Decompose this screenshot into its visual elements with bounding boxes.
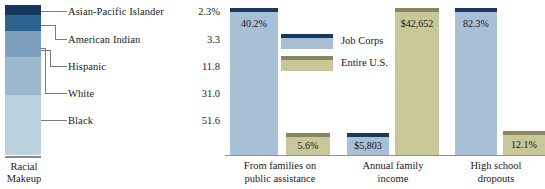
bar-cap-job-corps (455, 8, 497, 12)
racial-label-hispanic: Hispanic (68, 61, 106, 72)
racial-caption-line1: Racial (0, 161, 48, 174)
stack-segment-white (5, 57, 41, 95)
bar-job-corps-annual-family-income: $5,803 (347, 133, 389, 155)
stack-segment-black (5, 95, 41, 155)
legend-swatch-job-corps (281, 34, 333, 49)
racial-label-black: Black (68, 115, 93, 126)
racial-makeup-chart: Asian-Pacific Islander American Indian H… (0, 0, 230, 189)
bar-value-job-corps-high-school-dropouts: 82.3% (455, 18, 497, 29)
racial-value-american-indian: 3.3 (178, 34, 220, 45)
racial-label-asian-pacific-islander: Asian-Pacific Islander (68, 6, 164, 17)
group-caption-public-assistance-line1: From families on (225, 160, 335, 173)
bar-cap-job-corps (230, 8, 278, 12)
bar-job-corps-high-school-dropouts: 82.3% (455, 8, 497, 155)
bar-cap-entire-us (503, 131, 545, 135)
bar-cap-entire-us (286, 133, 330, 137)
legend-swatch-entire-us (281, 56, 333, 71)
leader-line-american-indian-seg (41, 25, 55, 26)
racial-value-hispanic: 11.8 (178, 61, 220, 72)
group-caption-annual-family-income-line2: income (338, 173, 448, 186)
stack-segment-hispanic (5, 31, 41, 57)
stack-segment-american-indian (5, 15, 41, 31)
leader-line-asian-pacific-islander (41, 11, 67, 12)
legend-swatch-cap-entire-us (281, 56, 333, 60)
bar-value-entire-us-public-assistance: 5.6% (286, 140, 330, 151)
leader-line-hispanic-drop (50, 50, 51, 67)
bar-value-entire-us-high-school-dropouts: 12.1% (503, 139, 545, 150)
bar-cap-entire-us (395, 8, 439, 12)
racial-value-black: 51.6 (178, 115, 220, 126)
legend-swatch-cap-job-corps (281, 34, 333, 38)
group-caption-high-school-dropouts-line2: dropouts (447, 173, 545, 186)
leader-line-hispanic-label (50, 66, 67, 67)
leader-line-white-label (45, 93, 67, 94)
bar-value-job-corps-public-assistance: 40.2% (230, 18, 278, 29)
figure-root: Asian-Pacific Islander American Indian H… (0, 0, 545, 189)
racial-label-american-indian: American Indian (68, 34, 140, 45)
group-caption-high-school-dropouts-line1: High school (447, 160, 545, 173)
racial-stacked-bar (5, 5, 41, 155)
grouped-bar-chart: 40.2% 5.6% From families on public assis… (225, 0, 545, 189)
group-caption-public-assistance-line2: public assistance (225, 173, 335, 186)
leader-line-white-drop (45, 48, 46, 94)
racial-caption-line2: Makeup (0, 173, 48, 186)
stack-segment-asian-pacific-islander (5, 5, 41, 15)
legend-label-job-corps: Job Corps (341, 35, 383, 47)
racial-label-white: White (68, 88, 94, 99)
bar-value-entire-us-annual-family-income: $42,652 (395, 18, 439, 29)
bar-value-job-corps-annual-family-income: $5,803 (347, 140, 389, 151)
leader-line-black (41, 120, 67, 121)
group-caption-annual-family-income-line1: Annual family (338, 160, 448, 173)
bar-job-corps-public-assistance: 40.2% (230, 8, 278, 155)
stack-baseline (5, 156, 41, 158)
leader-line-american-indian-drop (55, 25, 56, 40)
racial-value-white: 31.0 (178, 88, 220, 99)
chart-baseline-axis (225, 155, 545, 156)
legend-label-entire-us: Entire U.S. (341, 57, 388, 69)
racial-value-asian-pacific-islander: 2.3% (178, 6, 220, 17)
bar-entire-us-high-school-dropouts: 12.1% (503, 131, 545, 155)
bar-entire-us-public-assistance: 5.6% (286, 133, 330, 155)
bar-entire-us-annual-family-income: $42,652 (395, 8, 439, 155)
bar-cap-job-corps (347, 133, 389, 137)
leader-line-american-indian-label (55, 39, 67, 40)
